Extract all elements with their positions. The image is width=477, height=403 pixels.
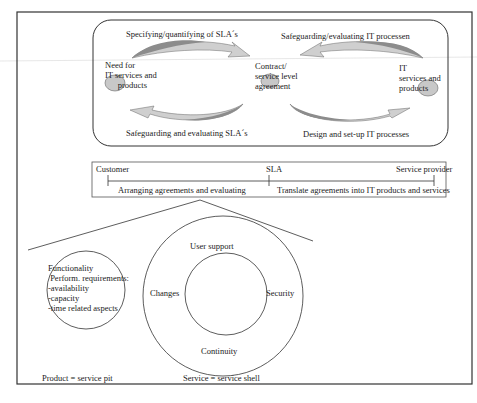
service-continuity: Continuity (201, 346, 237, 356)
node-need-label: Need for IT services and products (105, 60, 157, 90)
arrow-bottom-left (130, 104, 243, 120)
product-requirements: Functionality Perform. requirements: -av… (48, 263, 129, 313)
sla-provider-label: Service provider (396, 164, 452, 174)
label-safeguarding-it: Safeguarding/evaluating IT processen (281, 31, 410, 41)
arrow-top-right (300, 42, 423, 58)
node-contract-label: Contract/ service level agreement (255, 61, 298, 91)
label-design-it: Design and set-up IT processes (303, 129, 409, 139)
sla-left-activity: Arranging agreements and evaluating (118, 185, 246, 195)
service-changes: Changes (150, 288, 179, 298)
label-safeguarding-sla: Safeguarding and evaluating SLA´s (126, 128, 248, 138)
service-caption: Service = service shell (183, 373, 260, 383)
expand-line-left (28, 200, 200, 250)
product-caption: Product = service pit (42, 373, 113, 383)
expand-line-right (200, 200, 313, 241)
sla-right-activity: Translate agreements into IT products an… (277, 185, 450, 195)
label-specifying-sla: Specifying/quantifying of SLA´s (126, 29, 238, 39)
stray-line (0, 57, 477, 61)
diagram-canvas (0, 0, 477, 403)
sla-sla-label: SLA (266, 164, 282, 174)
arrow-top-left (132, 40, 250, 58)
service-security: Security (266, 288, 294, 298)
node-it-services-label: IT services and products (399, 63, 441, 93)
service-user-support: User support (190, 241, 234, 251)
service-inner-circle (185, 253, 267, 335)
arrow-bottom-right (290, 104, 410, 121)
sla-customer-label: Customer (96, 164, 129, 174)
